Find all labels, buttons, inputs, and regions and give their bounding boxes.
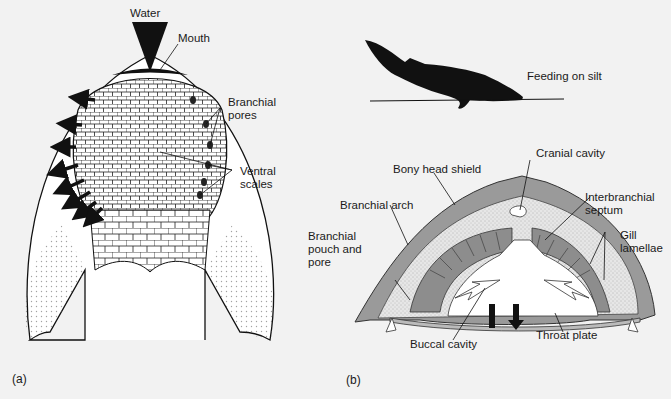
label-feeding-on-silt: Feeding on silt bbox=[527, 70, 602, 83]
label-interbranchial-septum: Interbranchial septum bbox=[585, 191, 655, 217]
fish-silhouette bbox=[365, 40, 523, 109]
label-branchial-pores: Branchial pores bbox=[228, 96, 276, 122]
label-cranial-cavity: Cranial cavity bbox=[536, 147, 605, 160]
label-branchial-arch: Branchial arch bbox=[340, 199, 414, 212]
label-throat-plate: Throat plate bbox=[536, 329, 597, 342]
figure-canvas: Water Mouth Branchial pores Ventral scal… bbox=[0, 0, 671, 399]
label-mouth: Mouth bbox=[178, 32, 210, 45]
label-buccal-cavity: Buccal cavity bbox=[410, 338, 477, 351]
label-ventral-scales: Ventral scales bbox=[240, 165, 276, 191]
label-branchial-pouch: Branchial pouch and pore bbox=[308, 230, 362, 269]
panel-label-a: (a) bbox=[12, 372, 27, 386]
panel-a-ventral-view bbox=[25, 22, 275, 340]
label-water: Water bbox=[130, 7, 160, 20]
panel-b-feeding-and-section bbox=[355, 40, 655, 340]
label-bony-head-shield: Bony head shield bbox=[393, 163, 481, 176]
label-gill-lamellae: Gill lamellae bbox=[620, 229, 663, 255]
panel-label-b: (b) bbox=[346, 373, 361, 387]
